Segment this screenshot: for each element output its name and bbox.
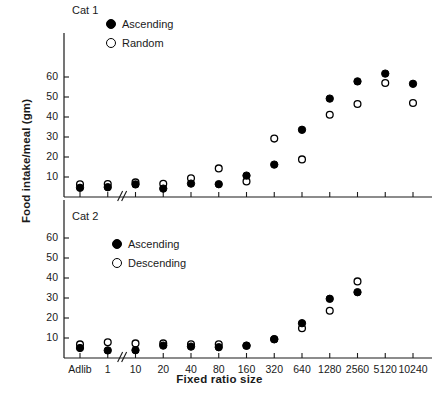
data-point-filled-circle: [160, 342, 167, 349]
data-point-filled-circle: [326, 95, 333, 102]
data-point-open-circle: [326, 307, 333, 314]
y-tick-label: 20: [26, 150, 58, 162]
y-tick-label: 60: [26, 70, 58, 82]
data-point-open-circle: [326, 111, 333, 118]
panel-title-cat2: Cat 2: [72, 210, 98, 222]
data-point-filled-circle: [215, 344, 222, 351]
data-point-open-circle: [271, 135, 278, 142]
data-point-filled-circle: [132, 181, 139, 188]
data-point-filled-circle: [215, 181, 222, 188]
legend-item-cat2-ascending: Ascending: [112, 238, 179, 250]
data-point-filled-circle: [409, 80, 416, 87]
legend-label: Random: [122, 37, 164, 49]
legend-label: Descending: [128, 257, 186, 269]
x-tick-label: 320: [265, 363, 283, 375]
data-point-open-circle: [410, 100, 417, 107]
legend-label: Ascending: [122, 18, 173, 30]
x-tick-label: Adlib: [68, 363, 91, 375]
data-point-open-circle: [354, 101, 361, 108]
y-tick-label: 40: [26, 110, 58, 122]
y-tick-label: 30: [26, 291, 58, 303]
figure-container: Food intake/meal (gm) Fixed ratio size C…: [0, 0, 439, 394]
filled-circle-icon: [106, 19, 116, 29]
data-point-open-circle: [215, 165, 222, 172]
y-tick-label: 30: [26, 130, 58, 142]
data-point-filled-circle: [298, 320, 305, 327]
data-point-filled-circle: [298, 126, 305, 133]
open-circle-icon: [112, 258, 122, 268]
data-point-filled-circle: [271, 336, 278, 343]
x-tick-label: 5120: [374, 363, 397, 375]
legend-label: Ascending: [128, 238, 179, 250]
data-point-filled-circle: [354, 289, 361, 296]
data-point-filled-circle: [187, 180, 194, 187]
data-point-open-circle: [382, 80, 389, 87]
x-tick-label: 160: [238, 363, 256, 375]
panel-title-cat1: Cat 1: [72, 4, 98, 16]
data-point-filled-circle: [104, 347, 111, 354]
x-tick-label: 1280: [318, 363, 341, 375]
data-point-filled-circle: [160, 185, 167, 192]
x-tick-label: 1: [105, 363, 111, 375]
data-point-filled-circle: [382, 70, 389, 77]
filled-circle-icon: [112, 239, 122, 249]
data-point-filled-circle: [243, 172, 250, 179]
y-tick-label: 10: [26, 170, 58, 182]
x-tick-label: 40: [185, 363, 197, 375]
legend-item-cat2-descending: Descending: [112, 257, 186, 269]
legend-item-cat1-random: Random: [106, 37, 164, 49]
x-tick-label: 10240: [398, 363, 427, 375]
y-tick-label: 50: [26, 90, 58, 102]
x-tick-label: 20: [157, 363, 169, 375]
x-tick-label: 80: [213, 363, 225, 375]
data-point-filled-circle: [243, 342, 250, 349]
data-point-filled-circle: [76, 184, 83, 191]
scatter-plot-svg: [0, 0, 439, 394]
data-point-open-circle: [299, 156, 306, 163]
data-point-filled-circle: [354, 78, 361, 85]
data-point-filled-circle: [326, 295, 333, 302]
data-point-filled-circle: [76, 344, 83, 351]
data-point-filled-circle: [132, 347, 139, 354]
y-tick-label: 40: [26, 271, 58, 283]
y-tick-label: 60: [26, 231, 58, 243]
x-tick-label: 640: [293, 363, 311, 375]
data-point-filled-circle: [104, 184, 111, 191]
legend-item-cat1-ascending: Ascending: [106, 18, 173, 30]
data-point-open-circle: [354, 278, 361, 285]
open-circle-icon: [106, 38, 116, 48]
y-tick-label: 10: [26, 331, 58, 343]
data-point-open-circle: [132, 340, 139, 347]
x-tick-label: 2560: [346, 363, 369, 375]
data-point-filled-circle: [271, 161, 278, 168]
data-point-open-circle: [104, 339, 111, 346]
y-tick-label: 20: [26, 311, 58, 323]
data-point-filled-circle: [187, 343, 194, 350]
x-tick-label: 10: [130, 363, 142, 375]
y-tick-label: 50: [26, 251, 58, 263]
